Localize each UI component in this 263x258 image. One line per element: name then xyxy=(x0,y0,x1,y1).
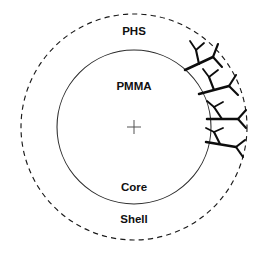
label-shell-region: Shell xyxy=(120,213,147,225)
schematic-canvas: PHS PMMA Core Shell xyxy=(0,0,263,258)
dendron-4 xyxy=(206,128,245,157)
label-core-region: Core xyxy=(121,181,147,193)
label-core-polymer: PMMA xyxy=(116,80,151,92)
label-shell-polymer: PHS xyxy=(122,25,146,37)
grafted-polymer-group xyxy=(185,41,246,157)
core-shell-diagram: PHS PMMA Core Shell xyxy=(0,0,263,258)
center-marker-icon xyxy=(127,120,141,134)
dendron-3 xyxy=(207,101,246,128)
dendron-2 xyxy=(199,69,238,95)
dendron-1 xyxy=(185,41,222,70)
